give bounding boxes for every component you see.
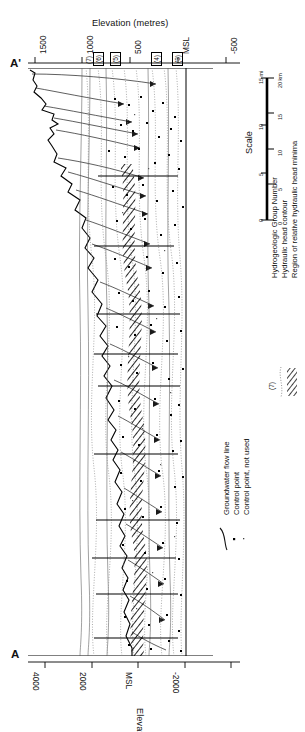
bottom-axis-title: Elevation (feet) — [145, 708, 208, 718]
scale-km-unit: 20 km — [277, 88, 292, 94]
bottom-tick-label-1: 2000 — [88, 672, 107, 682]
figure-root: Elevation (metres) 1500 1000 500 MSL -50… — [0, 0, 305, 732]
top-tick-label-3: MSL — [181, 54, 198, 64]
scale-miles-5: 5 — [258, 176, 261, 182]
scale-miles-0: 0 — [258, 222, 261, 228]
top-tick-label-2: 500 — [133, 54, 147, 64]
dotted-line-icon — [276, 366, 286, 398]
group-label-6: (6) — [93, 66, 107, 77]
cross-section-panel — [28, 68, 213, 656]
legend-item-head-minima: Region of relative hydraulic head minima — [290, 278, 305, 287]
flow-line-icon — [218, 526, 230, 552]
bottom-tick-label-0: 4000 — [41, 672, 60, 682]
group-label-4: (4) — [151, 66, 165, 77]
bottom-axis: 4000 2000 MSL -2000 Elevation (feet) — [0, 656, 305, 732]
control-point-icon — [230, 534, 238, 544]
scale-km-10: 10 — [277, 156, 283, 162]
legend-item-control-point-unused: Control point, not used — [242, 515, 305, 524]
scale-km-15: 15 — [277, 120, 283, 126]
group-number-icon: (7) — [268, 390, 276, 397]
scale-miles-10: 10 — [258, 130, 264, 136]
control-point-unused-icon — [240, 534, 248, 544]
scale-miles-unit: 15 mi — [258, 84, 271, 90]
cross-section-drawing — [28, 68, 213, 656]
section-end-label-a-prime: A' — [10, 57, 21, 69]
hatch-icon — [286, 366, 298, 398]
legend: Hydrogeologic Group Number Hydraulic hea… — [218, 270, 305, 660]
group-label-5: (5) — [110, 66, 124, 77]
bottom-tick-label-3: -2000 — [181, 672, 202, 682]
top-tick-label-0: 1500 — [38, 54, 57, 64]
bottom-tick-label-2: MSL — [134, 672, 151, 682]
group-label-3: (3) — [172, 66, 186, 77]
